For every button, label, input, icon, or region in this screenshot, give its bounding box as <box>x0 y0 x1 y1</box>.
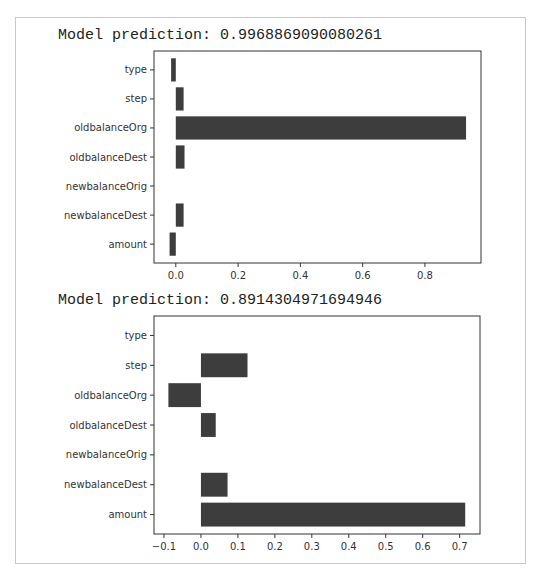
bottom-ytick-label-type: type <box>125 330 147 341</box>
bottom-xtick-label-5: 0.4 <box>341 541 357 552</box>
bottom-bar-oldbalanceDest <box>201 413 216 437</box>
top-bar-amount <box>170 233 176 256</box>
top-bar-step <box>176 87 184 110</box>
bottom-ytick-label-oldbalanceOrg: oldbalanceOrg <box>74 390 147 401</box>
top-bar-type <box>171 58 176 81</box>
bottom-bar-oldbalanceOrg <box>168 383 201 407</box>
bottom-ytick-label-step: step <box>125 360 147 371</box>
top-xtick-label-4: 0.8 <box>417 270 433 281</box>
top-ytick-label-amount: amount <box>108 239 147 250</box>
figure-caption <box>15 566 395 574</box>
top-bar-oldbalanceDest <box>176 145 185 168</box>
bottom-ytick-label-oldbalanceDest: oldbalanceDest <box>69 420 147 431</box>
top-ytick-label-step: step <box>125 93 147 104</box>
bottom-ytick-label-amount: amount <box>108 509 147 520</box>
top-ytick-label-oldbalanceDest: oldbalanceDest <box>69 152 147 163</box>
bottom-xtick-label-7: 0.6 <box>415 541 431 552</box>
top-ytick-label-type: type <box>125 64 147 75</box>
bottom-bar-step <box>201 353 248 377</box>
bottom-bar-newbalanceDest <box>201 473 228 497</box>
top-xtick-label-0: 0.0 <box>168 270 184 281</box>
bottom-xtick-label-0: −0.1 <box>152 541 176 552</box>
top-bar-oldbalanceOrg <box>176 116 466 139</box>
top-ytick-label-newbalanceDest: newbalanceDest <box>64 210 147 221</box>
charts-svg: typestepoldbalanceOrgoldbalanceDestnewba… <box>0 0 542 577</box>
bottom-xtick-label-3: 0.2 <box>267 541 283 552</box>
top-xtick-label-1: 0.2 <box>230 270 246 281</box>
top-xtick-label-2: 0.4 <box>292 270 308 281</box>
top-xtick-label-3: 0.6 <box>355 270 371 281</box>
top-axes-frame <box>154 51 481 263</box>
top-ytick-label-newbalanceOrig: newbalanceOrig <box>66 181 147 192</box>
bottom-ytick-label-newbalanceOrig: newbalanceOrig <box>66 449 147 460</box>
bottom-xtick-label-1: 0.0 <box>193 541 209 552</box>
top-ytick-label-oldbalanceOrg: oldbalanceOrg <box>74 122 147 133</box>
bottom-xtick-label-2: 0.1 <box>230 541 246 552</box>
bottom-xtick-label-6: 0.5 <box>378 541 394 552</box>
top-bar-newbalanceDest <box>176 203 184 226</box>
bottom-xtick-label-4: 0.3 <box>304 541 320 552</box>
bottom-ytick-label-newbalanceDest: newbalanceDest <box>64 479 147 490</box>
bottom-bar-amount <box>201 503 465 527</box>
bottom-xtick-label-8: 0.7 <box>452 541 468 552</box>
